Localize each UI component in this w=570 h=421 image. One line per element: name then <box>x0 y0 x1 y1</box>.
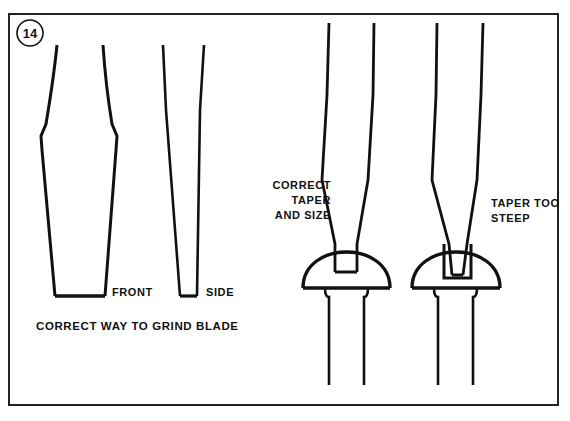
grind-blade-caption: CORRECT WAY TO GRIND BLADE <box>36 320 239 332</box>
front-view-label: FRONT <box>112 286 153 298</box>
steep-callout-line1: TAPER TOO <box>491 197 560 209</box>
correct-callout-line1: CORRECT <box>272 179 331 191</box>
side-view-label: SIDE <box>206 286 234 298</box>
figure-panel: 14 FRONT SIDE CORRECT WAY TO GRIND BLADE <box>0 0 570 421</box>
screwdriver-grinding-diagram: 14 FRONT SIDE CORRECT WAY TO GRIND BLADE <box>0 0 570 421</box>
correct-callout-line3: AND SIZE <box>275 209 331 221</box>
badge-number-text: 14 <box>23 26 38 41</box>
correct-callout-line2: TAPER <box>292 194 331 206</box>
figure-number-badge: 14 <box>17 20 43 46</box>
steep-callout-line2: STEEP <box>491 212 530 224</box>
